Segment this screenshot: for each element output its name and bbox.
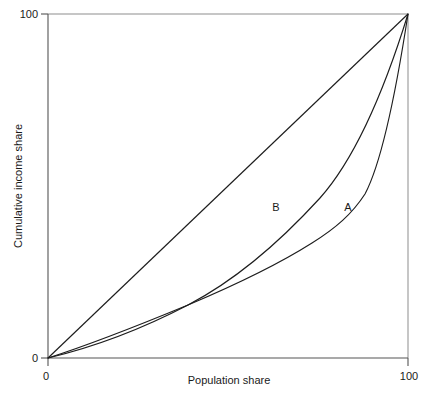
y-axis-tick-label-100: 100 bbox=[20, 8, 38, 20]
curve-label-a: A bbox=[344, 201, 352, 213]
x-axis-title: Population share bbox=[188, 374, 271, 386]
y-axis-title: Cumulative income share bbox=[12, 124, 24, 248]
x-axis-tick-label-0: 0 bbox=[43, 370, 49, 382]
lorenz-curve-chart: 100 0 0 100 Population share Cumulative … bbox=[0, 0, 426, 394]
equality-line bbox=[48, 14, 408, 358]
x-axis-tick-label-100: 100 bbox=[400, 370, 418, 382]
chart-canvas: 100 0 0 100 Population share Cumulative … bbox=[0, 0, 426, 394]
curve-label-b: B bbox=[272, 201, 279, 213]
y-axis-tick-label-0: 0 bbox=[32, 352, 38, 364]
